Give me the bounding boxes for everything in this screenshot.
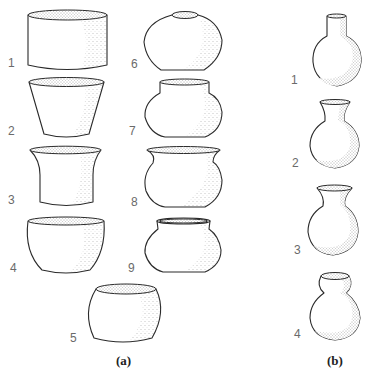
vessel-number-b1: 1 — [291, 73, 298, 87]
vessel-number-b2: 2 — [292, 156, 299, 170]
panel-label-a: (a) — [116, 353, 131, 368]
vessel-forms-figure: 1 2 3 4 5 6 7 8 9 (a) — [0, 0, 375, 377]
vessel-b4 — [310, 273, 360, 341]
vessel-number-a5: 5 — [70, 331, 77, 345]
vessel-a1 — [28, 10, 107, 70]
vessel-a9 — [145, 218, 221, 272]
vessel-number-b3: 3 — [294, 243, 301, 257]
vessel-a6 — [144, 12, 222, 71]
vessel-number-a3: 3 — [8, 193, 15, 207]
vessel-number-a8: 8 — [131, 195, 138, 209]
vessel-number-a2: 2 — [8, 124, 15, 138]
vessel-number-a1: 1 — [8, 56, 15, 70]
vessel-number-a6: 6 — [131, 57, 138, 71]
vessel-b3 — [308, 185, 358, 255]
panel-label-b: (b) — [327, 353, 343, 368]
vessel-number-b4: 4 — [294, 327, 301, 341]
vessel-a4 — [27, 217, 104, 273]
vessel-number-a7: 7 — [129, 124, 136, 138]
vessel-b2 — [310, 100, 359, 169]
panel-a: 1 2 3 4 5 6 7 8 9 (a) — [8, 10, 222, 368]
vessel-a5 — [88, 284, 160, 342]
vessel-a8 — [145, 147, 222, 208]
vessel-a2 — [29, 78, 104, 138]
vessel-a7 — [145, 79, 222, 137]
vessel-b1 — [313, 14, 361, 86]
vessel-a3 — [30, 146, 101, 205]
panel-b: 1 2 3 4 (b) — [291, 14, 361, 368]
vessel-number-a9: 9 — [128, 261, 135, 275]
vessel-number-a4: 4 — [10, 261, 17, 275]
